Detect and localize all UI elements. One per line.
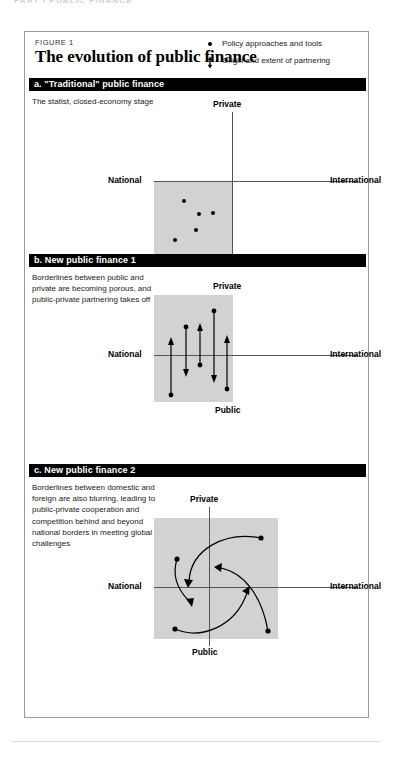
data-point <box>197 212 201 216</box>
legend-item-partnering: Origin and extent of partnering <box>204 55 362 69</box>
axis-label-private: Private <box>213 99 241 109</box>
data-point <box>194 228 198 232</box>
page-bottom-rule <box>12 741 380 742</box>
partnering-arrow <box>211 309 217 383</box>
partnering-arrow <box>168 337 174 397</box>
flow-arrow <box>214 563 271 634</box>
data-point <box>182 199 186 203</box>
data-point <box>173 238 177 242</box>
data-point <box>211 211 215 215</box>
partnering-arrows-group <box>25 267 370 452</box>
panel-c-title: c. New public finance 2 <box>34 465 135 475</box>
axis-label-national: National <box>108 175 142 185</box>
panel-b-header-bar: b. New public finance 1 <box>29 254 366 267</box>
panel-a-header-bar: a. "Traditional" public finance <box>29 78 366 91</box>
figure-kicker: FIGURE 1 <box>35 38 74 47</box>
axis-vertical <box>232 112 233 255</box>
diagram-new-public-finance-2: Private National International Public <box>25 477 370 692</box>
flow-arrow <box>184 535 264 588</box>
quadrant-fill-national-public <box>154 181 232 254</box>
panel-traditional-public-finance: a. "Traditional" public finance The stat… <box>25 78 368 244</box>
partnering-arrow <box>183 325 189 377</box>
legend-label: Policy approaches and tools <box>222 38 322 50</box>
axis-label-international: International <box>330 175 381 185</box>
panel-new-public-finance-2: c. New public finance 2 Borderlines betw… <box>25 464 368 694</box>
panel-new-public-finance-1: b. New public finance 1 Borderlines betw… <box>25 254 368 454</box>
axis-horizontal <box>154 181 358 182</box>
figure-legend: Policy approaches and tools Origin and e… <box>204 38 362 72</box>
figure-frame: FIGURE 1 The evolution of public finance… <box>24 31 369 718</box>
dot-icon <box>204 38 216 51</box>
diagram-traditional: Private National International Public <box>25 91 370 241</box>
panel-c-header-bar: c. New public finance 2 <box>29 464 366 477</box>
diagram-new-public-finance-1: Private National International Public <box>25 267 370 452</box>
panel-b-title: b. New public finance 1 <box>34 255 136 265</box>
figure-header: FIGURE 1 The evolution of public finance… <box>25 32 368 78</box>
partnering-arrow <box>224 335 230 391</box>
global-flow-arrows-group <box>25 477 370 692</box>
partnering-arrow <box>197 323 203 367</box>
legend-label: Origin and extent of partnering <box>222 55 330 67</box>
double-arrow-icon <box>204 55 216 68</box>
flow-arrow <box>172 586 250 633</box>
panel-a-title: a. "Traditional" public finance <box>34 79 164 89</box>
legend-item-policy: Policy approaches and tools <box>204 38 362 52</box>
running-head: PART I PUBLIC FINANCE <box>14 0 133 5</box>
